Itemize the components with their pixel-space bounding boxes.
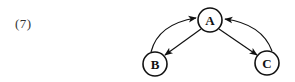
edge-a-to-c (219, 29, 257, 55)
edge-b-to-a (151, 18, 196, 52)
node-c-label: C (262, 56, 271, 71)
node-a: A (198, 8, 222, 32)
edge-a-to-b (165, 29, 201, 55)
node-c: C (255, 51, 279, 75)
node-a-label: A (205, 13, 215, 28)
node-b-label: B (151, 57, 160, 72)
edge-c-to-a (225, 19, 272, 51)
graph-diagram: A B C (0, 0, 295, 82)
node-b: B (143, 52, 167, 76)
